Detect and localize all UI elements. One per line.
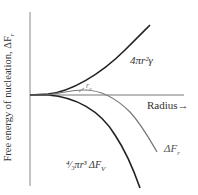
total-free-energy-curve	[30, 90, 157, 152]
total-free-energy-label: ΔFr	[164, 143, 180, 157]
volume-term-label: ⁴⁄₃πr³ ΔFV	[66, 160, 105, 173]
surface-term-label: 4πr²γ	[130, 55, 153, 66]
critical-radius-label: rc	[86, 82, 92, 92]
volume-term-curve	[30, 95, 140, 188]
x-axis-label: Radius→	[147, 100, 189, 111]
y-axis-label: Free energy of nucleation, ΔFr	[2, 10, 16, 185]
